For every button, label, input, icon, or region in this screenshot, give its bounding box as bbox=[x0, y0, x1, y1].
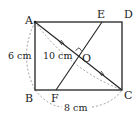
rectangle-diagram: A E D O B F C 6 cm 10 cm 8 cm bbox=[0, 0, 139, 120]
measurement-bc: 8 cm bbox=[64, 102, 87, 113]
measurement-ab: 6 cm bbox=[8, 50, 31, 61]
dashed-arc-bc-right bbox=[92, 90, 122, 107]
measurement-ac: 10 cm bbox=[43, 50, 72, 61]
label-o: O bbox=[82, 52, 91, 65]
label-f: F bbox=[51, 92, 59, 105]
label-a: A bbox=[24, 14, 34, 27]
label-c: C bbox=[124, 89, 132, 102]
right-angle-mark bbox=[76, 48, 82, 51]
label-d: D bbox=[124, 8, 133, 21]
point-a-dot bbox=[34, 21, 37, 24]
label-e: E bbox=[97, 8, 105, 21]
label-b: B bbox=[25, 92, 33, 105]
